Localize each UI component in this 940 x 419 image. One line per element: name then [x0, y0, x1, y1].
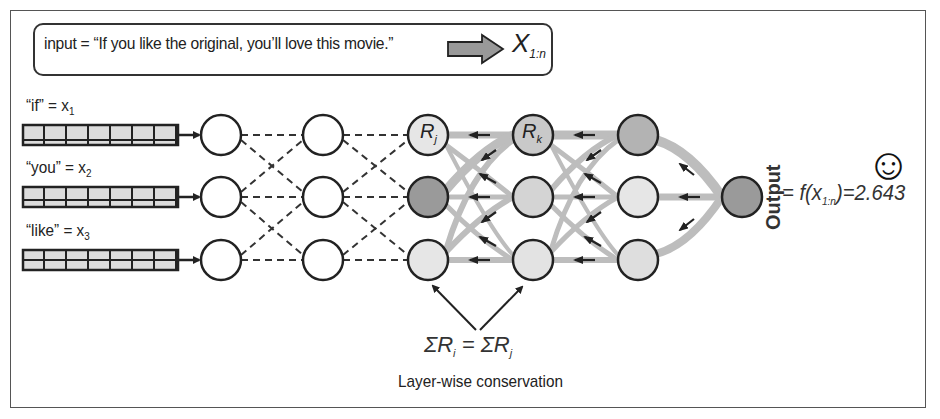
- relevance-label-rk: Rk: [522, 120, 542, 145]
- hidden1-node-1: [303, 115, 343, 155]
- hidden4-node-1: [618, 115, 658, 155]
- conservation-equation: ΣRi = ΣRj: [424, 332, 512, 359]
- conservation-arrows: [433, 286, 522, 330]
- hidden3-node-2: [513, 177, 553, 217]
- input-node-2: [201, 177, 241, 217]
- input-node-3: [201, 240, 241, 280]
- hidden1-node-2: [303, 177, 343, 217]
- smiley-face-icon: ☺: [866, 142, 911, 186]
- hidden1-node-3: [303, 240, 343, 280]
- hidden3-node-3: [513, 240, 553, 280]
- thick-right-arrow-icon: [448, 35, 503, 63]
- hidden4-node-3: [618, 240, 658, 280]
- hidden2-node-3: [408, 240, 448, 280]
- hidden4-node-2: [618, 177, 658, 217]
- hidden2-node-2: [408, 177, 448, 217]
- relevance-label-rj: Rj: [420, 120, 437, 145]
- conservation-caption: Layer-wise conservation: [398, 372, 563, 392]
- input-node-1: [201, 115, 241, 155]
- output-node: [722, 177, 762, 217]
- embedding-vectors: [23, 125, 199, 270]
